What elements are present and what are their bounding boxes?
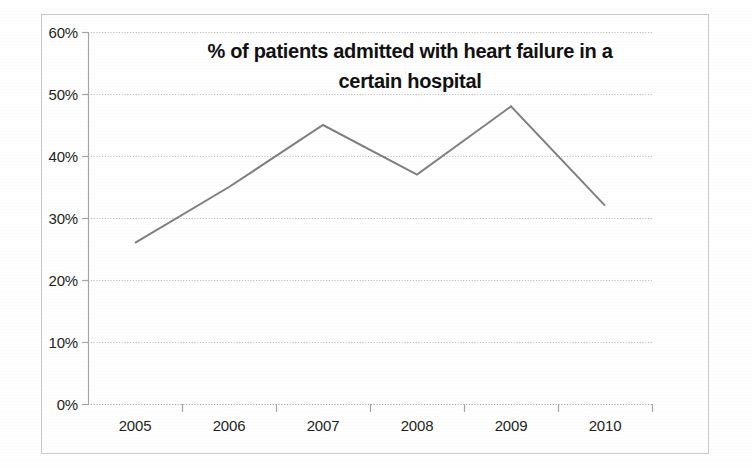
y-tick-label-50: 50% — [26, 86, 78, 103]
x-axis-ticks — [183, 404, 653, 412]
y-tick-label-60: 60% — [26, 24, 78, 41]
x-tick-label-2007: 2007 — [288, 417, 358, 434]
chart-title: % of patients admitted with heart failur… — [150, 36, 670, 96]
x-tick-label-2006: 2006 — [194, 417, 264, 434]
chart-title-line-1: % of patients admitted with heart failur… — [150, 36, 670, 66]
y-tick-label-30: 30% — [26, 210, 78, 227]
data-series-line — [135, 106, 605, 242]
x-tick-label-2010: 2010 — [570, 417, 640, 434]
y-tick-label-10: 10% — [26, 334, 78, 351]
y-tick-label-40: 40% — [26, 148, 78, 165]
x-tick-label-2005: 2005 — [100, 417, 170, 434]
chart-title-line-2: certain hospital — [150, 66, 670, 96]
y-tick-label-20: 20% — [26, 272, 78, 289]
x-tick-label-2009: 2009 — [476, 417, 546, 434]
y-tick-label-0: 0% — [26, 396, 78, 413]
y-axis-ticks — [82, 33, 88, 405]
x-tick-label-2008: 2008 — [382, 417, 452, 434]
